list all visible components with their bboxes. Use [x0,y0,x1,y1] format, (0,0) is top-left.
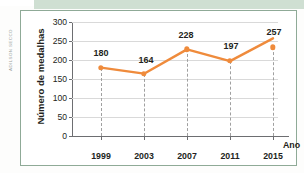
data-label: 228 [178,30,193,40]
x-tick-mark [273,136,274,140]
x-tick-label: 2007 [177,151,197,161]
y-axis-tick-labels: 300 250 200 150 100 50 0 [41,11,67,167]
y-tick-mark [69,136,73,137]
data-label: 197 [223,41,238,51]
line-chart: Número de medalhas 300 250 200 150 100 5… [21,11,298,167]
image-credit: ADILSON SECCO [8,15,20,85]
y-tick-label: 150 [41,74,67,84]
top-band-left-gap [0,0,34,6]
plot-area: 180 164 228 197 257 1999 2003 2007 2011 … [72,22,278,136]
data-label: 164 [138,55,153,65]
x-tick-label: 1999 [91,151,111,161]
y-tick-label: 0 [41,131,67,141]
x-tick-mark [144,136,145,140]
x-tick-label: 2015 [263,151,283,161]
top-decorative-band [34,0,304,9]
x-tick-mark [101,136,102,140]
data-label: 180 [93,48,108,58]
y-tick-label: 50 [41,112,67,122]
y-tick-label: 200 [41,55,67,65]
data-label: 257 [266,27,281,37]
series-line [72,22,278,136]
y-tick-label: 300 [41,17,67,27]
x-tick-label: 2011 [220,151,239,161]
x-tick-mark [230,136,231,140]
chart-panel: Número de medalhas 300 250 200 150 100 5… [20,10,297,166]
x-axis-line [72,136,289,137]
y-tick-label: 100 [41,93,67,103]
x-axis-title: Ano [283,140,300,150]
y-tick-label: 250 [41,36,67,46]
x-tick-mark [187,136,188,140]
figure-root: ADILSON SECCO Número de medalhas 300 250… [0,0,304,173]
x-tick-label: 2003 [134,151,154,161]
